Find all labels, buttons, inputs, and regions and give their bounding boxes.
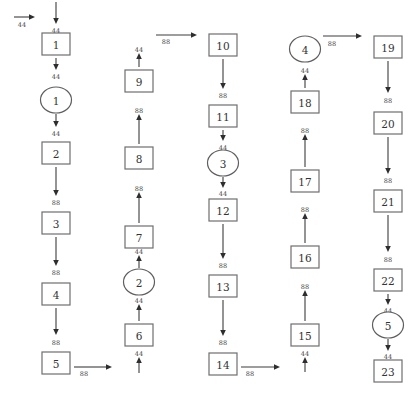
arrowhead-icon	[53, 64, 59, 70]
node-label: 2	[136, 277, 143, 289]
node-label: 6	[136, 330, 143, 342]
edge-label: 88	[135, 107, 143, 115]
edge-label: 88	[52, 269, 60, 277]
edge-label: 44	[301, 67, 309, 75]
arrowhead-icon	[385, 299, 391, 305]
node-label: 14	[216, 359, 230, 371]
process-box: 17	[291, 170, 319, 192]
node-label: 7	[136, 232, 143, 244]
edge-label: 88	[384, 97, 392, 105]
process-box: 7	[125, 226, 153, 248]
edge-arrow: 88	[135, 185, 143, 223]
edge-arrow: 44	[52, 2, 60, 35]
process-box: 8	[125, 147, 153, 169]
edge-label: 88	[301, 206, 309, 214]
arrowhead-icon	[53, 190, 59, 196]
edge-arrow: 44	[135, 297, 143, 321]
process-box: 22	[374, 269, 402, 291]
node-label: 8	[136, 153, 143, 165]
node-label: 10	[216, 40, 229, 52]
junction-ellipse: 1	[41, 87, 72, 113]
junction-ellipse: 3	[208, 150, 239, 176]
edge-arrow: 88	[156, 32, 197, 46]
edge-label: 44	[135, 297, 143, 305]
arrowhead-icon	[106, 364, 112, 370]
arrowhead-icon	[53, 260, 59, 266]
arrowhead-icon	[385, 168, 391, 174]
edge-label: 44	[18, 21, 26, 29]
edge-arrow: 44	[301, 350, 309, 372]
node-label: 5	[53, 358, 60, 370]
edge-label: 88	[219, 262, 227, 270]
edge-label: 44	[52, 130, 60, 138]
edge-arrow: 88	[135, 107, 143, 144]
node-label: 23	[381, 366, 394, 378]
process-box: 11	[209, 105, 237, 127]
edge-label: 88	[219, 339, 227, 347]
arrowhead-icon	[385, 345, 391, 351]
process-box: 15	[291, 324, 319, 346]
edge-arrow: 88	[384, 215, 392, 264]
arrowhead-icon	[220, 83, 226, 89]
arrowhead-icon	[385, 246, 391, 252]
process-box: 4	[42, 283, 70, 305]
edge-label: 88	[384, 256, 392, 264]
process-box: 23	[374, 360, 402, 382]
edge-arrow: 88	[241, 364, 280, 378]
node-label: 1	[53, 39, 60, 51]
node-label: 11	[216, 111, 229, 123]
arrowhead-icon	[53, 329, 59, 335]
edge-label: 88	[328, 40, 336, 48]
edge-label: 88	[219, 92, 227, 100]
node-label: 5	[385, 320, 392, 332]
arrowhead-icon	[274, 364, 280, 370]
edge-label: 88	[301, 283, 309, 291]
edge-arrow: 88	[323, 33, 362, 48]
junction-ellipse: 2	[124, 269, 155, 295]
flow-diagram: 4444444488888888444444888844888844448888…	[0, 0, 420, 399]
edge-arrow: 88	[219, 224, 227, 270]
process-box: 19	[374, 36, 402, 58]
arrowhead-icon	[385, 87, 391, 93]
edge-arrow: 44	[219, 130, 227, 152]
edge-label: 88	[80, 370, 88, 378]
process-box: 12	[209, 199, 237, 221]
edge-label: 88	[52, 199, 60, 207]
node-label: 18	[298, 97, 311, 109]
node-label: 15	[298, 330, 311, 342]
node-label: 16	[298, 252, 312, 264]
edge-label: 88	[135, 185, 143, 193]
node-label: 1	[53, 95, 60, 107]
process-box: 13	[209, 275, 237, 297]
arrowhead-icon	[191, 32, 197, 38]
junction-ellipse: 5	[373, 312, 404, 338]
process-box: 6	[125, 324, 153, 346]
edge-arrow: 88	[52, 308, 60, 347]
edge-arrow: 88	[74, 364, 112, 378]
edge-label: 88	[162, 38, 170, 46]
node-label: 3	[220, 158, 227, 170]
arrowhead-icon	[220, 135, 226, 141]
edge-arrow: 88	[52, 237, 60, 277]
node-label: 21	[381, 196, 394, 208]
process-box: 3	[42, 212, 70, 234]
process-box: 16	[291, 246, 319, 268]
edge-arrow: 44	[384, 339, 392, 361]
edge-label: 88	[246, 370, 254, 378]
edge-arrow: 44	[135, 248, 143, 268]
edge-arrow: 44	[135, 46, 143, 67]
node-label: 4	[302, 44, 309, 56]
edge-arrow: 44	[135, 350, 143, 373]
edge-arrow: 88	[301, 206, 309, 243]
edge-label: 44	[301, 350, 309, 358]
edge-arrow: 44	[52, 114, 60, 138]
arrowhead-icon	[220, 182, 226, 188]
process-box: 5	[42, 352, 70, 374]
node-label: 12	[216, 205, 229, 217]
edge-arrow: 44	[52, 58, 60, 81]
process-box: 20	[374, 112, 402, 134]
edge-label: 44	[135, 248, 143, 256]
arrowhead-icon	[53, 18, 59, 24]
process-box: 10	[209, 34, 237, 56]
edge-arrow: 44	[14, 14, 35, 29]
